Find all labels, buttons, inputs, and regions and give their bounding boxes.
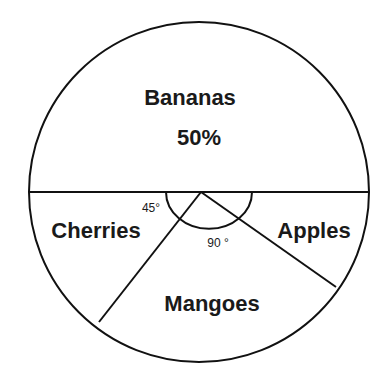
- label-angle-90: 90 °: [207, 236, 228, 250]
- pie-chart: [0, 0, 388, 380]
- label-cherries: Cherries: [51, 218, 140, 244]
- label-angle-45: 45°: [142, 201, 160, 215]
- label-bananas-percent: 50%: [177, 125, 221, 151]
- label-apples: Apples: [277, 218, 350, 244]
- label-bananas: Bananas: [144, 85, 236, 111]
- label-mangoes: Mangoes: [164, 291, 259, 317]
